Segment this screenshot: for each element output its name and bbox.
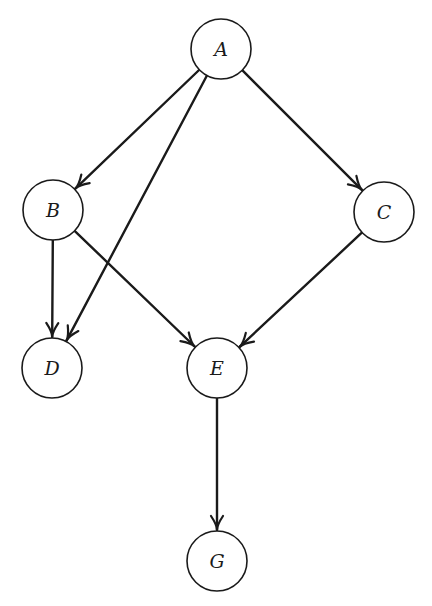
node-label: C: [377, 201, 392, 223]
node-label: E: [209, 357, 224, 379]
node-label: B: [45, 199, 60, 221]
node-label: A: [212, 38, 228, 60]
edge-a-to-c: [242, 70, 362, 190]
edge-b-to-d: [46, 240, 58, 337]
node-c: C: [354, 182, 414, 242]
edge-a-to-b: [75, 70, 199, 189]
node-g: G: [187, 531, 247, 591]
edge-b-to-e: [75, 231, 195, 347]
node-d: D: [22, 338, 82, 398]
edge-line: [242, 70, 362, 190]
graph-canvas: ABCDEG: [0, 0, 432, 606]
node-b: B: [23, 180, 83, 240]
node-label: G: [209, 550, 224, 572]
node-label: D: [43, 357, 59, 379]
edge-line: [240, 232, 362, 346]
edge-e-to-g: [211, 398, 223, 530]
edge-line: [75, 70, 199, 189]
edge-c-to-e: [240, 232, 362, 346]
node-e: E: [187, 338, 247, 398]
edges-layer: [46, 70, 362, 530]
edge-line: [67, 76, 207, 341]
edge-line: [75, 231, 195, 347]
edge-a-to-d: [67, 76, 207, 341]
node-a: A: [191, 19, 251, 79]
edge-line: [52, 240, 53, 337]
